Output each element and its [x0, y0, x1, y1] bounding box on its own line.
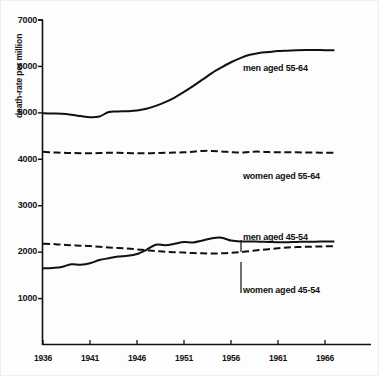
- series-lines: [43, 50, 334, 268]
- plot-area: [0, 0, 379, 376]
- axes: [38, 20, 371, 345]
- series-path-women-aged-45-54: [43, 244, 334, 254]
- series-path-men-aged-55-64: [43, 50, 334, 117]
- chart-root: death-rate per million 7000 6000 5000 40…: [0, 0, 379, 376]
- series-path-men-aged-45-54: [43, 238, 334, 269]
- series-path-women-aged-55-64: [43, 151, 334, 153]
